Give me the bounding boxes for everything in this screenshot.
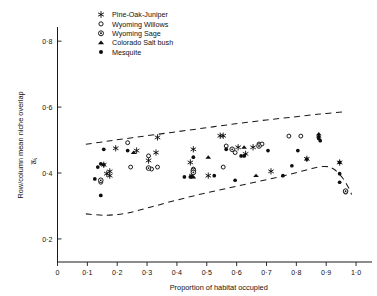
legend-label: Colorado Salt bush	[112, 38, 173, 47]
legend: Pine-Oak-JuniperWyoming WillowsWyoming S…	[98, 10, 173, 57]
data-point	[305, 157, 309, 161]
data-point	[102, 147, 106, 151]
legend-marker-filled-circle	[99, 50, 103, 54]
legend-marker-dot-circle	[99, 31, 104, 36]
data-point	[257, 144, 262, 149]
x-axis-ticks: 00·10·20·30·40·50·60·70·80·91·0	[56, 262, 362, 277]
data-point	[224, 147, 228, 151]
data-point	[126, 149, 130, 153]
series-colorado-salt-bush	[131, 132, 322, 178]
y-tick-label: 0·6	[42, 104, 52, 112]
data-points	[93, 132, 348, 197]
data-point	[93, 177, 97, 181]
data-point	[318, 139, 322, 143]
data-point	[146, 166, 151, 171]
envelope-curves	[86, 112, 352, 215]
data-point	[296, 149, 300, 153]
x-tick-label: 0·3	[142, 269, 152, 277]
legend-item-0: Pine-Oak-Juniper	[98, 10, 168, 19]
data-point	[98, 178, 103, 183]
data-point	[338, 172, 342, 176]
data-point	[230, 147, 235, 152]
data-point	[281, 174, 285, 178]
y-tick-label: 0·8	[42, 38, 52, 46]
legend-marker-asterisk	[98, 12, 103, 18]
data-point	[191, 155, 195, 159]
data-point	[191, 147, 196, 153]
data-point	[221, 133, 226, 139]
legend-item-3: Colorado Salt bush	[98, 38, 173, 47]
data-point	[126, 141, 130, 145]
legend-label: Wyoming Sage	[112, 29, 161, 38]
data-point	[269, 169, 274, 175]
data-point	[233, 178, 237, 182]
data-point	[338, 180, 342, 184]
x-tick-label: 0·8	[291, 269, 301, 277]
data-point	[205, 155, 211, 158]
data-point	[287, 134, 291, 138]
data-point	[290, 164, 294, 168]
scatter-plot-figure: 00·10·20·30·40·50·60·70·80·91·0 0·20·40·…	[0, 0, 377, 296]
data-point	[224, 144, 228, 148]
data-point	[183, 175, 187, 179]
y-tick-label: 0·4	[42, 170, 52, 178]
y-axis-ticks: 0·20·40·60·8	[42, 38, 61, 244]
data-point	[155, 135, 160, 141]
x-tick-label: 0·7	[261, 269, 271, 277]
data-point	[156, 165, 160, 169]
data-point	[188, 160, 193, 166]
x-tick-label: 0·6	[232, 269, 242, 277]
data-point	[343, 189, 348, 194]
data-point	[154, 150, 159, 156]
data-point	[96, 165, 100, 169]
legend-label: Pine-Oak-Juniper	[112, 10, 169, 19]
data-point	[99, 194, 103, 198]
x-tick-label: 0·5	[202, 269, 212, 277]
data-point	[113, 146, 118, 152]
x-tick-label: 0·4	[172, 269, 182, 277]
data-point	[129, 165, 133, 169]
data-point	[189, 175, 193, 179]
data-point	[102, 163, 106, 167]
data-point	[338, 161, 342, 165]
legend-marker-open-circle	[99, 22, 103, 26]
data-point	[236, 145, 241, 151]
y-axis-symbol: a̅ᵢⱼ	[29, 158, 38, 165]
x-tick-label: 0·9	[321, 269, 331, 277]
data-point	[146, 158, 151, 164]
data-point	[266, 149, 270, 153]
data-point	[212, 174, 216, 178]
axis-lines	[58, 27, 373, 262]
envelope-upper-bound	[86, 112, 343, 144]
x-tick-label: 0	[56, 269, 60, 277]
legend-item-1: Wyoming Willows	[99, 20, 169, 29]
y-axis-label: Row/column mean niche overlap	[16, 91, 25, 198]
data-point	[242, 154, 246, 158]
legend-label: Wyoming Willows	[112, 20, 169, 29]
data-point	[221, 165, 225, 169]
legend-item-2: Wyoming Sage	[99, 29, 161, 38]
envelope-lower-bound	[86, 166, 352, 215]
y-tick-label: 0·2	[42, 236, 52, 244]
data-point	[147, 154, 151, 158]
data-point	[299, 134, 303, 138]
legend-item-4: Mesquite	[99, 48, 141, 57]
axes: 00·10·20·30·40·50·60·70·80·91·0 0·20·40·…	[42, 27, 372, 277]
legend-marker-triangle	[98, 41, 104, 45]
data-point	[253, 174, 259, 177]
series-wyoming-willows	[99, 134, 348, 194]
series-pine-oak-juniper	[101, 133, 342, 178]
data-point	[251, 145, 256, 151]
data-point	[241, 145, 247, 148]
y-axis-label-group: Row/column mean niche overlap	[16, 91, 25, 198]
data-point	[191, 170, 196, 175]
plot-canvas: 00·10·20·30·40·50·60·70·80·91·0 0·20·40·…	[0, 0, 377, 296]
data-point	[206, 173, 211, 179]
x-axis-label: Proportion of habitat occupied	[170, 283, 268, 292]
x-tick-label: 0·1	[82, 269, 92, 277]
legend-label: Mesquite	[112, 48, 141, 57]
data-point	[218, 133, 223, 139]
x-tick-label: 1·0	[351, 269, 361, 277]
x-tick-label: 0·2	[112, 269, 122, 277]
